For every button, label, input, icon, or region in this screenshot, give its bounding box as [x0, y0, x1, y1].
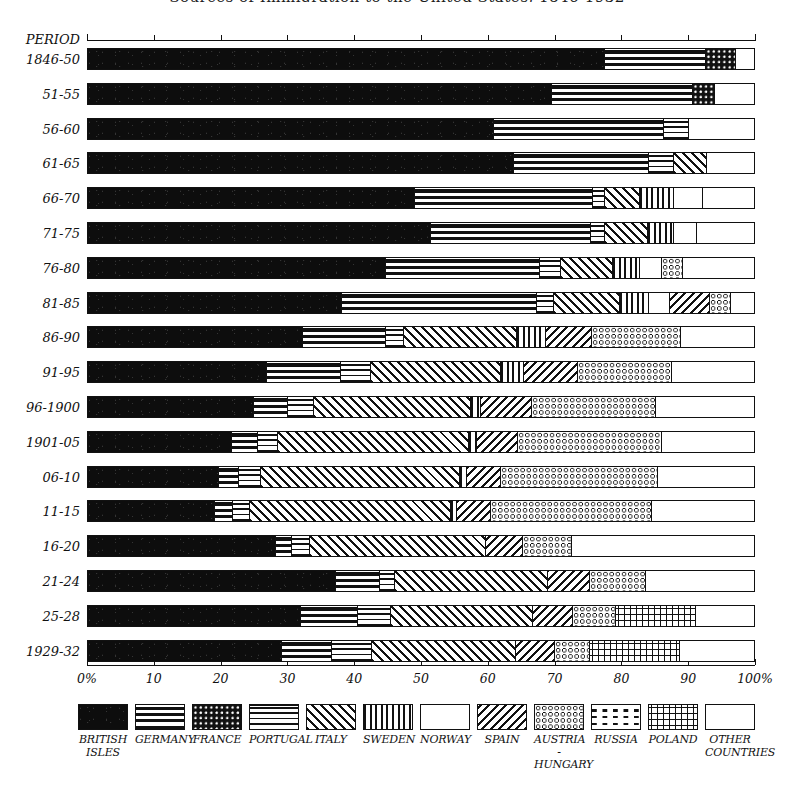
- stacked-bar: [87, 570, 755, 592]
- bar-segment-other: [646, 571, 755, 591]
- bar-row: [87, 292, 755, 314]
- axis-tick-label: 30: [279, 671, 295, 686]
- bar-segment-portugal: [292, 536, 311, 556]
- scan-speckle: [88, 188, 414, 208]
- scan-speckle: [88, 49, 604, 69]
- bar-segment-portugal: [258, 432, 277, 452]
- row-label-61-65: 61-65: [0, 156, 80, 171]
- bar-segment-portugal: [341, 362, 371, 382]
- row-label-71-75: 71-75: [0, 226, 80, 241]
- stacked-bar: [87, 640, 755, 662]
- bar-segment-italy: [278, 432, 469, 452]
- bar-segment-austria: [518, 432, 662, 452]
- bar-segment-british: [88, 293, 342, 313]
- legend-item-other[interactable]: OTHER COUNTRIES: [705, 704, 755, 759]
- bar-segment-italy: [674, 153, 707, 173]
- bar-segment-austria: [501, 467, 659, 487]
- bar-segment-other: [691, 397, 755, 417]
- bar-segment-british: [88, 327, 303, 347]
- axis-top-tick: [755, 34, 756, 41]
- scan-speckle: [88, 641, 281, 661]
- bar-segment-austria: [592, 327, 680, 347]
- legend-item-spain[interactable]: SPAIN: [477, 704, 527, 747]
- bar-segment-other: [572, 536, 755, 556]
- legend-item-austria[interactable]: AUSTRIA -HUNGARY: [534, 704, 584, 772]
- legend-item-russia[interactable]: RUSSIA: [591, 704, 641, 747]
- legend-item-sweden[interactable]: SWEDEN: [363, 704, 413, 747]
- bar-segment-germany: [276, 536, 292, 556]
- bar-segment-austria: [710, 293, 731, 313]
- row-label-25-28: 25-28: [0, 609, 80, 624]
- legend-label-austria: AUSTRIA -HUNGARY: [534, 734, 584, 772]
- bar-segment-sweden: [517, 327, 546, 347]
- legend-item-portugal[interactable]: PORTUGAL: [249, 704, 299, 747]
- bar-segment-british: [88, 258, 386, 278]
- axis-top-tick: [354, 35, 355, 41]
- bar-segment-germany: [386, 258, 540, 278]
- legend-label-france: FRANCE: [192, 734, 242, 747]
- bar-segment-other: [699, 467, 755, 487]
- bar-segment-france: [693, 84, 715, 104]
- bar-row: [87, 570, 755, 592]
- legend-item-norway[interactable]: NORWAY: [420, 704, 470, 747]
- axis-tick-label: 100%: [737, 671, 773, 686]
- stacked-bar: [87, 292, 755, 314]
- stacked-bar: [87, 326, 755, 348]
- row-label-76-80: 76-80: [0, 261, 80, 276]
- bar-segment-spain: [548, 571, 589, 591]
- bar-segment-poland: [590, 641, 680, 661]
- legend-swatch-france-icon: [192, 704, 242, 730]
- legend-item-germany[interactable]: GERMANY: [135, 704, 185, 747]
- legend-item-british[interactable]: BRITISH ISLES: [78, 704, 128, 759]
- bar-segment-italy: [372, 641, 516, 661]
- legend-label-russia: RUSSIA: [591, 734, 641, 747]
- bar-segment-british: [88, 397, 254, 417]
- legend-label-british: BRITISH ISLES: [78, 734, 128, 759]
- row-label-81-85: 81-85: [0, 296, 80, 311]
- bar-segment-germany: [415, 188, 593, 208]
- axis-tick-label: 80: [613, 671, 629, 686]
- legend-swatch-italy-icon: [306, 704, 356, 730]
- legend-swatch-germany-icon: [135, 704, 185, 730]
- scan-speckle: [88, 223, 430, 243]
- chart-title: Sources of Immigration to the United Sta…: [0, 0, 794, 2]
- axis-top-tick: [87, 34, 88, 41]
- scan-speckle: [88, 84, 551, 104]
- bar-segment-other: [693, 501, 755, 521]
- scan-speckle: [88, 119, 493, 139]
- bar-row: [87, 466, 755, 488]
- bar-segment-british: [88, 571, 336, 591]
- bar-segment-british: [88, 606, 301, 626]
- stacked-bar: [87, 535, 755, 557]
- scan-speckle: [88, 153, 513, 173]
- bar-segment-british: [88, 501, 215, 521]
- bar-segment-portugal: [591, 223, 605, 243]
- stacked-bar: [87, 500, 755, 522]
- bar-segment-germany: [342, 293, 537, 313]
- bar-row: [87, 431, 755, 453]
- bar-row: [87, 257, 755, 279]
- bar-segment-germany: [301, 606, 358, 626]
- legend-item-poland[interactable]: POLAND: [648, 704, 698, 747]
- bar-segment-sweden: [620, 293, 649, 313]
- legend-item-france[interactable]: FRANCE: [192, 704, 242, 747]
- legend-label-poland: POLAND: [648, 734, 698, 747]
- bar-segment-portugal: [593, 188, 605, 208]
- bar-segment-other: [683, 258, 755, 278]
- bar-segment-italy: [605, 223, 648, 243]
- bar-row: [87, 535, 755, 557]
- bar-segment-italy: [554, 293, 620, 313]
- legend-swatch-other-icon: [705, 704, 755, 730]
- row-label-66-70: 66-70: [0, 191, 80, 206]
- row-label-86-90: 86-90: [0, 330, 80, 345]
- legend-label-sweden: SWEDEN: [363, 734, 413, 747]
- bar-row: [87, 361, 755, 383]
- axis-top-tick: [421, 35, 422, 41]
- bar-row: [87, 48, 755, 70]
- bar-segment-germany: [431, 223, 591, 243]
- bar-segment-spain: [481, 397, 532, 417]
- scan-speckle: [88, 432, 231, 452]
- period-column-header: PERIOD: [0, 32, 80, 47]
- row-label-56-60: 56-60: [0, 122, 80, 137]
- legend-item-italy[interactable]: ITALY: [306, 704, 356, 747]
